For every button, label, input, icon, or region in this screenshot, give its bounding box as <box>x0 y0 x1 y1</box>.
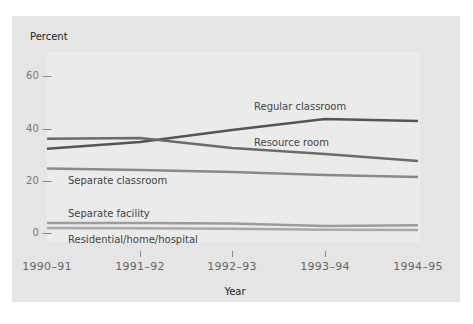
series-line-regular-classroom <box>47 119 418 149</box>
x-tick-1993-94: 1993–94 <box>290 260 360 273</box>
label-separate-classroom: Separate classroom <box>68 175 167 186</box>
x-tickmark-1991-92 <box>140 251 141 257</box>
series-line-residential-home-hospital <box>47 228 418 230</box>
x-axis-title: Year <box>200 286 270 297</box>
x-tick-1992-93: 1992–93 <box>197 260 267 273</box>
label-residential-home-hospital: Residential/home/hospital <box>68 234 198 245</box>
label-regular-classroom: Regular classroom <box>254 101 346 112</box>
label-separate-facility: Separate facility <box>68 208 150 219</box>
line-plot <box>0 0 473 324</box>
x-tick-1994-95: 1994–95 <box>383 260 453 273</box>
label-resource-room: Resource room <box>254 137 329 148</box>
x-tick-1990-91: 1990–91 <box>12 260 82 273</box>
x-tickmark-1992-93 <box>232 251 233 257</box>
series-line-separate-facility <box>47 223 418 226</box>
series-line-resource-room <box>47 138 418 161</box>
x-tick-1991-92: 1991–92 <box>105 260 175 273</box>
x-tickmark-1993-94 <box>325 251 326 257</box>
